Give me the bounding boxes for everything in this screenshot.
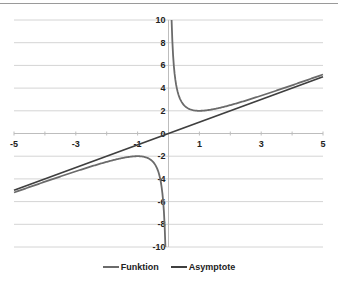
y-tick-label: -10: [152, 242, 165, 252]
y-tick-label: 4: [160, 83, 165, 93]
y-tick-label: -2: [157, 151, 165, 161]
legend-item-funktion: Funktion: [103, 262, 159, 272]
y-tick-label: 6: [160, 60, 165, 70]
y-tick-label: 2: [160, 106, 165, 116]
chart-legend: Funktion Asymptote: [0, 262, 338, 272]
x-tick-label: 1: [197, 139, 202, 149]
legend-label-funktion: Funktion: [121, 262, 159, 272]
legend-swatch-funktion: [103, 266, 119, 268]
legend-item-asymptote: Asymptote: [171, 262, 236, 272]
x-tick-label: 5: [320, 139, 325, 149]
x-tick-label: 3: [259, 139, 264, 149]
y-tick-label: 10: [155, 15, 165, 25]
legend-swatch-asymptote: [171, 266, 187, 268]
y-tick-label: 8: [160, 38, 165, 48]
x-tick-label: -3: [72, 139, 80, 149]
x-tick-label: -5: [10, 139, 18, 149]
legend-label-asymptote: Asymptote: [189, 262, 236, 272]
chart-plot-area: 1086420-2-4-6-8-10-5-3-1135: [0, 0, 338, 262]
